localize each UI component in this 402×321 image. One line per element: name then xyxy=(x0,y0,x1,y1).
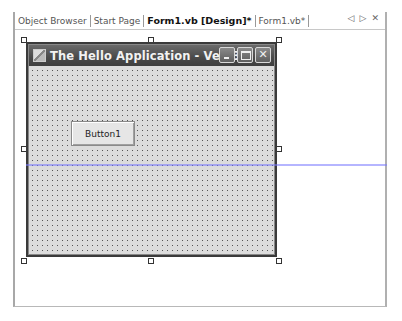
tab-start-page[interactable]: Start Page xyxy=(91,14,144,28)
form-app-icon xyxy=(33,49,46,62)
snapline-guide xyxy=(26,164,387,166)
tab-navigation: ◁ ▷ ✕ xyxy=(348,13,379,23)
tab-form1-code[interactable]: Form1.vb* xyxy=(256,14,309,28)
close-icon[interactable]: ✕ xyxy=(255,47,271,63)
resize-handle-bottom-center[interactable] xyxy=(148,258,154,264)
form1-design-surface[interactable]: The Hello Application - Ver. 3.0 ✕ Butto… xyxy=(26,42,277,257)
resize-handle-bottom-left[interactable] xyxy=(21,258,27,264)
form-client-area-grid[interactable]: Button1 xyxy=(29,66,274,254)
minimize-icon[interactable] xyxy=(219,47,235,63)
resize-handle-bottom-right[interactable] xyxy=(276,258,282,264)
tab-separator xyxy=(308,15,309,27)
form-title-bar[interactable]: The Hello Application - Ver. 3.0 ✕ xyxy=(29,45,274,66)
tab-object-browser[interactable]: Object Browser xyxy=(15,14,90,28)
scroll-right-icon[interactable]: ▷ xyxy=(360,13,367,23)
maximize-icon[interactable] xyxy=(237,47,253,63)
tab-form1-design[interactable]: Form1.vb [Design]* xyxy=(144,14,254,28)
button1-control[interactable]: Button1 xyxy=(71,121,135,146)
scroll-left-icon[interactable]: ◁ xyxy=(348,13,355,23)
close-document-icon[interactable]: ✕ xyxy=(371,13,379,23)
document-tab-strip: Object Browser Start Page Form1.vb [Desi… xyxy=(15,12,385,30)
window-controls: ✕ xyxy=(219,47,271,63)
